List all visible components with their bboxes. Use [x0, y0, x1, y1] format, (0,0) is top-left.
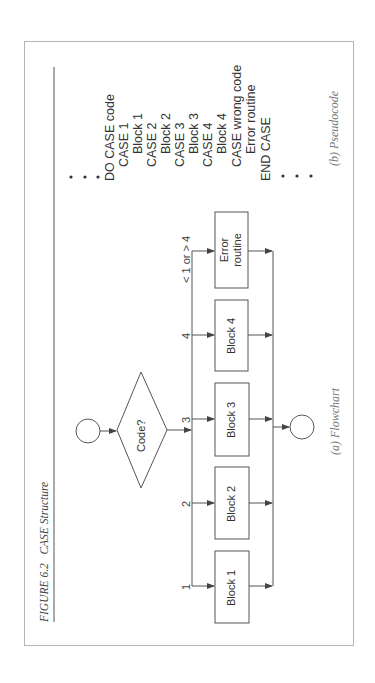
block-2-label: Block 2 [225, 486, 238, 522]
block-4-label: Block 4 [225, 318, 238, 354]
block-1-label: Block 1 [225, 570, 238, 606]
block-3-label: Block 3 [225, 402, 238, 438]
branch-label-1: 1 [180, 584, 192, 590]
figure-number: FIGURE 6.2 [38, 563, 50, 622]
decision-label: Code? [135, 420, 148, 452]
ellipsis-dot [96, 175, 99, 178]
pseudocode-line: Error routine [245, 85, 258, 154]
flowchart-caption: (a) Flowchart [328, 388, 343, 455]
ellipsis-dot [281, 174, 284, 177]
pseudocode-line: Block 4 [216, 113, 229, 154]
end-terminator [290, 415, 314, 439]
figure-title: FIGURE 6.2 CASE Structure [38, 482, 50, 622]
pseudocode-caption: (b) Pseudocode [327, 91, 342, 166]
error-routine-label: Error routine [218, 227, 244, 273]
pseudocode-line: CASE 1 [118, 123, 131, 167]
ellipsis-dot [309, 174, 312, 177]
branch-label-error: < 1 or > 4 [180, 236, 192, 283]
pseudocode-line: END CASE [260, 117, 273, 181]
figure-title-text: CASE Structure [38, 482, 50, 555]
error-routine-line2: routine [231, 227, 244, 273]
ellipsis-dot [69, 175, 72, 178]
ellipsis-dot [83, 175, 86, 178]
error-routine-line1: Error [218, 227, 231, 273]
pseudocode-line: Block 1 [132, 113, 145, 154]
branch-label-4: 4 [180, 333, 192, 339]
flowchart-diagram [0, 0, 375, 683]
pseudocode-line: DO CASE code [104, 94, 117, 181]
pseudocode-line: CASE 4 [202, 123, 215, 167]
pseudocode-line: Block 2 [160, 113, 173, 154]
pseudocode-line: CASE wrong code [231, 65, 244, 167]
pseudocode-line: CASE 3 [174, 123, 187, 167]
branch-label-2: 2 [180, 501, 192, 507]
pseudocode-line: Block 3 [188, 113, 201, 154]
ellipsis-dot [295, 174, 298, 177]
branch-label-3: 3 [180, 417, 192, 423]
pseudocode-line: CASE 2 [146, 123, 159, 167]
start-terminator [76, 419, 100, 443]
